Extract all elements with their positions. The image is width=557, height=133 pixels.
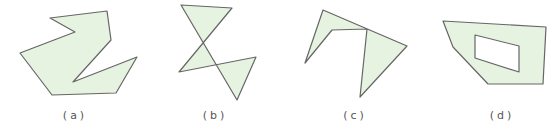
polygon-b — [179, 5, 256, 100]
label-d: (d) — [490, 109, 515, 122]
label-c: (c) — [343, 109, 367, 122]
polygon-a — [20, 11, 137, 95]
polygon-c — [305, 10, 407, 97]
label-b: (b) — [203, 109, 228, 122]
label-a: (a) — [63, 109, 87, 122]
